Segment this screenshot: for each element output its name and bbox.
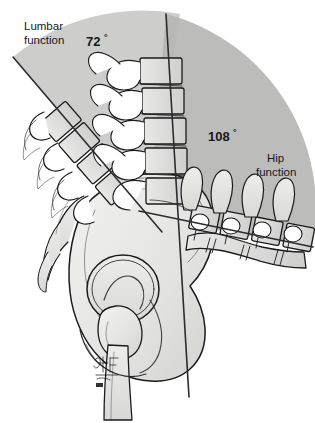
- hip-angle-degree-symbol: °: [233, 127, 237, 137]
- lumbar-function-label-line2: function: [24, 34, 64, 46]
- femur-shaft: [104, 345, 132, 420]
- hip-function-label-line1: Hip: [267, 152, 284, 164]
- illustration-canvas: Lumbar function 72 ° 108 ° Hip function: [0, 0, 315, 423]
- hip-function-label-line2: function: [256, 166, 296, 178]
- lumbar-function-label-line1: Lumbar: [24, 20, 63, 32]
- lumbar-angle-value: 72: [86, 34, 100, 49]
- hip-angle-value: 108: [208, 129, 230, 144]
- anatomy-illustration: Lumbar function 72 ° 108 ° Hip function: [0, 0, 315, 423]
- lumbar-angle-degree-symbol: °: [104, 32, 108, 42]
